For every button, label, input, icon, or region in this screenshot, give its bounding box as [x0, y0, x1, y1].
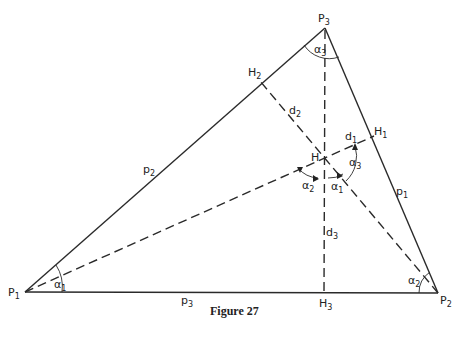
label-side-p2: p2 — [143, 163, 155, 178]
label-d3: d3 — [326, 226, 338, 241]
side-p3 — [25, 292, 438, 293]
figure-caption: Figure 27 — [210, 304, 259, 318]
label-side-p1: p1 — [396, 185, 408, 200]
label-alpha2-h: α2 — [302, 179, 314, 194]
label-h1: H1 — [374, 125, 387, 140]
arrow-icon-alpha2 — [313, 175, 319, 182]
arrow-icon-alpha1 — [337, 172, 343, 179]
triangle-altitudes-diagram: P1 P2 P3 H1 H2 H3 H p1 p2 p3 d1 d2 d3 α1… — [0, 0, 464, 339]
label-d1: d1 — [345, 130, 357, 145]
side-p2 — [25, 28, 325, 292]
label-d2: d2 — [289, 104, 301, 119]
altitude-p3-h3 — [324, 30, 325, 293]
altitude-p2-h2 — [260, 81, 438, 293]
label-p1: P1 — [8, 286, 20, 301]
label-alpha1-h: α1 — [331, 180, 343, 195]
label-side-p3: p3 — [181, 294, 193, 309]
label-alpha3-h: α3 — [349, 156, 361, 171]
side-p1 — [325, 28, 438, 293]
label-alpha1-p1: α1 — [54, 278, 66, 293]
label-p3: P3 — [318, 12, 330, 27]
label-p2: P2 — [440, 294, 452, 309]
label-orthocenter: H — [311, 151, 319, 164]
label-h3: H3 — [319, 297, 332, 312]
label-alpha2-p2: α2 — [408, 274, 420, 289]
altitude-p1-h1 — [25, 136, 374, 292]
label-h2: H2 — [248, 66, 261, 81]
